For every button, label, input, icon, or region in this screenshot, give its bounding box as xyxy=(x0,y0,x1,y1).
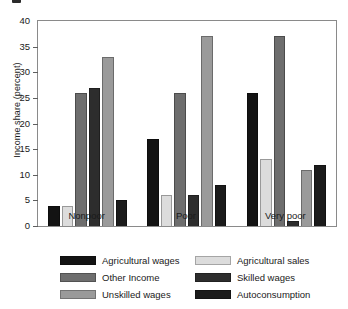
legend-item: Unskilled wages xyxy=(60,289,195,300)
bar-group xyxy=(237,21,336,226)
legend-label: Other Income xyxy=(102,272,160,283)
y-tick-mark xyxy=(33,226,38,227)
legend-item: Skilled wages xyxy=(195,272,340,283)
bar xyxy=(75,93,87,226)
legend-label: Unskilled wages xyxy=(102,289,171,300)
y-tick-label: 30 xyxy=(19,68,30,78)
bar xyxy=(116,200,128,226)
legend-label: Agricultural wages xyxy=(102,255,180,266)
chart-legend: Agricultural wagesAgricultural salesOthe… xyxy=(60,252,340,303)
bar xyxy=(147,139,159,226)
y-axis-title: Income share (percent) xyxy=(12,40,22,180)
legend-swatch xyxy=(195,290,231,299)
legend-item: Agricultural wages xyxy=(60,255,195,266)
bar xyxy=(102,57,114,226)
y-tick-label: 0 xyxy=(25,221,30,231)
bar xyxy=(89,88,101,226)
legend-swatch xyxy=(60,256,96,265)
legend-swatch xyxy=(60,273,96,282)
bar xyxy=(247,93,259,226)
legend-swatch xyxy=(195,256,231,265)
plot-area: 0510152025303540 xyxy=(37,20,337,227)
x-axis-label: Poor xyxy=(176,210,196,221)
bar xyxy=(48,206,60,227)
legend-label: Agricultural sales xyxy=(237,255,309,266)
y-tick-label: 25 xyxy=(19,93,30,103)
y-tick-label: 35 xyxy=(19,42,30,52)
legend-item: Other Income xyxy=(60,272,195,283)
y-tick-label: 20 xyxy=(19,119,30,129)
bar xyxy=(161,195,173,226)
x-axis-label: Very poor xyxy=(265,210,306,221)
legend-swatch xyxy=(195,273,231,282)
figure: Income share (percent) 0510152025303540 … xyxy=(0,0,348,309)
y-tick-label: 15 xyxy=(19,144,30,154)
bar xyxy=(274,36,286,226)
bar-group xyxy=(38,21,137,226)
legend-label: Autoconsumption xyxy=(237,289,310,300)
bar-group xyxy=(137,21,236,226)
cropped-figure-mark xyxy=(12,0,21,3)
y-tick-label: 40 xyxy=(19,16,30,26)
legend-item: Agricultural sales xyxy=(195,255,340,266)
bar-series-container xyxy=(38,21,336,226)
x-axis-label: Nonpoor xyxy=(68,210,104,221)
bar xyxy=(174,93,186,226)
legend-label: Skilled wages xyxy=(237,272,295,283)
bar xyxy=(287,221,299,226)
bar xyxy=(215,185,227,226)
legend-swatch xyxy=(60,290,96,299)
bar xyxy=(201,36,213,226)
legend-item: Autoconsumption xyxy=(195,289,340,300)
bar xyxy=(314,165,326,227)
y-tick-label: 10 xyxy=(19,170,30,180)
y-tick-label: 5 xyxy=(25,196,30,206)
